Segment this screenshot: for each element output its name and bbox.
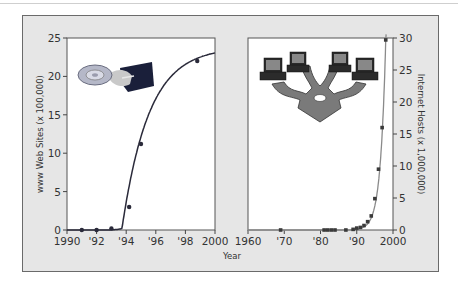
data-point [94, 228, 98, 232]
x-tick-label: '80 [312, 235, 328, 247]
data-point [109, 226, 113, 230]
data-point [351, 228, 355, 232]
x-tick-label: '96 [148, 235, 165, 247]
data-point [80, 228, 84, 232]
left-y-axis-label: www Web Sites (x 100,000) [35, 75, 45, 193]
y-tick-label: 15 [399, 128, 412, 140]
data-point [127, 205, 131, 209]
left-x-axis: 1990'92'94'96'982000 [54, 230, 229, 247]
y-tick-label: 20 [399, 96, 412, 108]
data-point [384, 38, 388, 42]
x-tick-label: '94 [118, 235, 135, 247]
x-tick-label: 2000 [202, 235, 229, 247]
data-point [369, 214, 373, 218]
y-tick-label: 15 [48, 109, 61, 121]
y-tick-label: 20 [48, 70, 61, 82]
right-y-axis: 051015202530 [393, 32, 412, 236]
x-tick-label: '70 [276, 235, 292, 247]
data-point [322, 228, 326, 232]
y-tick-label: 30 [399, 32, 412, 44]
data-point [330, 228, 334, 232]
right-x-axis: 1960'70'80'902000 [235, 230, 407, 247]
data-point [139, 142, 143, 146]
y-tick-label: 10 [399, 160, 412, 172]
x-tick-label: 1960 [235, 235, 262, 247]
left-chart: 0510152025 1990'92'94'96'982000 www Web … [35, 32, 228, 247]
x-tick-label: '90 [349, 235, 365, 247]
x-tick-label: 1990 [54, 235, 81, 247]
left-y-axis: 0510152025 [48, 32, 67, 236]
y-tick-label: 10 [48, 147, 61, 159]
x-tick-label: '92 [88, 235, 104, 247]
data-point [373, 197, 377, 201]
x-axis-label: Year [222, 251, 242, 261]
data-point [279, 228, 283, 232]
data-point [326, 228, 330, 232]
data-point [195, 59, 199, 63]
data-point [344, 228, 348, 232]
y-tick-label: 25 [399, 64, 412, 76]
data-point [333, 228, 337, 232]
charts-svg: 0510152025 1990'92'94'96'982000 www Web … [0, 0, 458, 285]
data-point [362, 224, 366, 228]
data-point [380, 126, 384, 130]
y-tick-label: 25 [48, 32, 61, 44]
x-tick-label: 2000 [380, 235, 407, 247]
data-point [359, 226, 363, 230]
y-tick-label: 5 [54, 186, 61, 198]
data-point [366, 220, 370, 224]
data-point [355, 226, 359, 230]
right-y-axis-label: Internet Hosts (x 1,000,000) [416, 74, 426, 195]
data-point [377, 167, 381, 171]
y-tick-label: 5 [399, 192, 406, 204]
right-chart: 051015202530 1960'70'80'902000 Internet … [235, 32, 426, 247]
x-tick-label: '98 [177, 235, 193, 247]
